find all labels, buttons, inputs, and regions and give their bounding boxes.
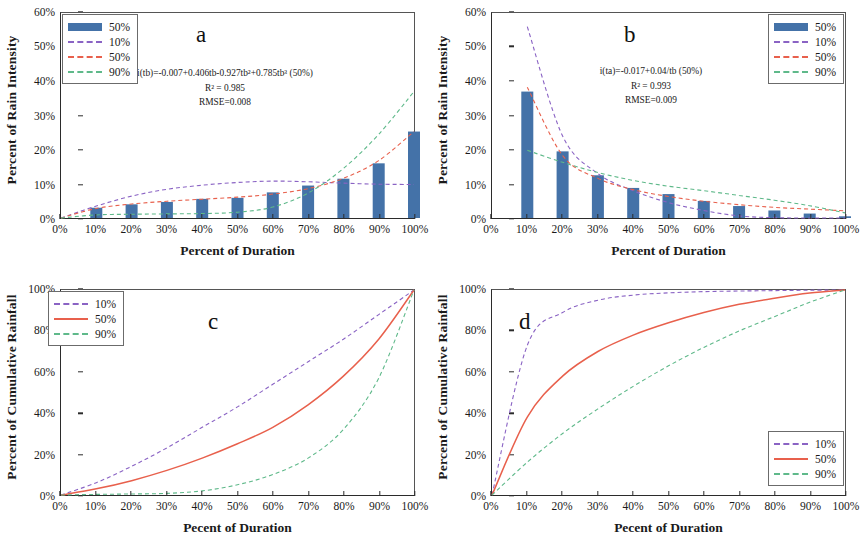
panel-b-y-axis-label: Percent of Rain Intensity xyxy=(433,0,453,219)
x-tick-label: 30% xyxy=(587,223,608,235)
legend-swatch-dash xyxy=(68,71,102,73)
x-tick-label: 10% xyxy=(85,223,106,235)
x-tick-label: 50% xyxy=(227,500,248,512)
x-tick-mark xyxy=(632,214,633,219)
x-tick-mark xyxy=(561,214,562,219)
x-tick-mark xyxy=(810,214,811,219)
legend-swatch-dash xyxy=(774,71,808,73)
bar xyxy=(592,175,604,218)
x-tick-mark xyxy=(597,491,598,496)
x-tick-label: 90% xyxy=(369,500,390,512)
panel-a-legend: 50%10%50%90% xyxy=(62,14,138,84)
series-line-90pct xyxy=(527,150,845,213)
panel-b-x-axis-label: Percent of Duration xyxy=(491,243,846,259)
x-tick-mark xyxy=(166,491,167,496)
x-tick-label: 10% xyxy=(85,500,106,512)
x-tick-label: 0% xyxy=(483,500,498,512)
bar xyxy=(408,132,420,218)
x-tick-mark xyxy=(308,491,309,496)
y-tick-label: 60% xyxy=(465,6,486,18)
x-tick-label: 90% xyxy=(800,500,821,512)
x-tick-label: 30% xyxy=(156,223,177,235)
x-tick-mark xyxy=(59,491,60,496)
panel-a-y-axis-label: Percent of Rain Intensity xyxy=(2,0,22,219)
legend-item: 90% xyxy=(54,326,116,341)
legend-item: 50% xyxy=(774,49,836,64)
x-tick-label: 100% xyxy=(402,500,429,512)
panel-d-y-axis-label: Percent of Cumulative Rainfall xyxy=(433,277,453,496)
panel-b-x-ticks: 0%10%20%30%40%50%60%70%80%90%100% xyxy=(491,223,846,237)
legend-label: 50% xyxy=(109,51,130,63)
x-tick-mark xyxy=(379,214,380,219)
x-tick-mark xyxy=(668,491,669,496)
x-tick-mark xyxy=(561,491,562,496)
x-tick-label: 40% xyxy=(622,500,643,512)
x-tick-mark xyxy=(739,491,740,496)
bar xyxy=(521,92,533,218)
panel-d-letter: d xyxy=(519,309,531,335)
panel-c-letter: c xyxy=(208,309,218,335)
panel-c-y-axis-label: Percent of Cumulative Rainfall xyxy=(2,277,22,496)
y-tick-label: 10% xyxy=(34,179,55,191)
panel-b-r2: R² = 0.993 xyxy=(536,79,766,94)
x-tick-label: 40% xyxy=(191,223,212,235)
legend-swatch-dash xyxy=(54,303,88,305)
x-tick-label: 50% xyxy=(658,223,679,235)
x-tick-mark xyxy=(201,214,202,219)
y-tick-label: 80% xyxy=(465,324,486,336)
panel-a-rmse: RMSE=0.008 xyxy=(100,95,350,110)
y-tick-label: 60% xyxy=(34,6,55,18)
x-tick-mark xyxy=(703,214,704,219)
y-tick-label: 50% xyxy=(34,40,55,52)
x-tick-mark xyxy=(845,491,846,496)
x-tick-mark xyxy=(597,214,598,219)
legend-item: 50% xyxy=(68,19,130,34)
panel-d-y-ticks: 0%20%40%60%80%100% xyxy=(453,289,489,496)
legend-label: 90% xyxy=(95,328,116,340)
panel-b-legend: 50%10%50%90% xyxy=(768,14,844,84)
bar xyxy=(90,208,102,218)
legend-swatch-dash xyxy=(54,333,88,335)
x-tick-label: 50% xyxy=(227,223,248,235)
panel-c-legend: 10%50%90% xyxy=(48,291,124,346)
x-tick-label: 30% xyxy=(156,500,177,512)
x-tick-label: 20% xyxy=(551,500,572,512)
x-tick-mark xyxy=(379,491,380,496)
legend-item: 50% xyxy=(54,311,116,326)
y-tick-label: 30% xyxy=(465,110,486,122)
x-tick-label: 10% xyxy=(516,500,537,512)
panel-b-equation: i(ta)=-0.017+0.04/tb (50%) R² = 0.993 RM… xyxy=(536,64,766,108)
x-tick-label: 0% xyxy=(483,223,498,235)
x-tick-mark xyxy=(490,491,491,496)
x-tick-mark xyxy=(308,214,309,219)
legend-label: 10% xyxy=(815,36,836,48)
x-tick-mark xyxy=(166,214,167,219)
legend-item: 50% xyxy=(774,451,836,466)
x-tick-mark xyxy=(201,491,202,496)
x-tick-mark xyxy=(739,214,740,219)
panel-d-x-axis-label: Pecent of Duration xyxy=(491,520,846,536)
x-tick-label: 100% xyxy=(833,500,860,512)
x-tick-label: 50% xyxy=(658,500,679,512)
legend-label: 10% xyxy=(95,298,116,310)
x-tick-label: 70% xyxy=(729,500,750,512)
panel-b-y-ticks: 0%10%20%30%40%50%60% xyxy=(453,12,489,219)
panel-c: Percent of Cumulative Rainfall 0%20%40%6… xyxy=(0,277,431,554)
legend-swatch-dash xyxy=(68,56,102,58)
x-tick-label: 60% xyxy=(693,500,714,512)
x-tick-label: 60% xyxy=(262,500,283,512)
x-tick-mark xyxy=(272,491,273,496)
legend-label: 90% xyxy=(815,468,836,480)
legend-swatch-bar xyxy=(68,23,102,31)
x-tick-label: 20% xyxy=(551,223,572,235)
legend-item: 50% xyxy=(68,49,130,64)
x-tick-mark xyxy=(490,214,491,219)
x-tick-mark xyxy=(774,491,775,496)
panel-b-letter: b xyxy=(624,22,636,48)
panel-a: Percent of Rain Intensity 0%10%20%30%40%… xyxy=(0,0,431,277)
bar xyxy=(373,163,385,218)
panel-d: Percent of Cumulative Rainfall 0%20%40%6… xyxy=(431,277,862,554)
x-tick-mark xyxy=(343,214,344,219)
panel-b-rmse: RMSE=0.009 xyxy=(536,93,766,108)
x-tick-label: 40% xyxy=(191,500,212,512)
